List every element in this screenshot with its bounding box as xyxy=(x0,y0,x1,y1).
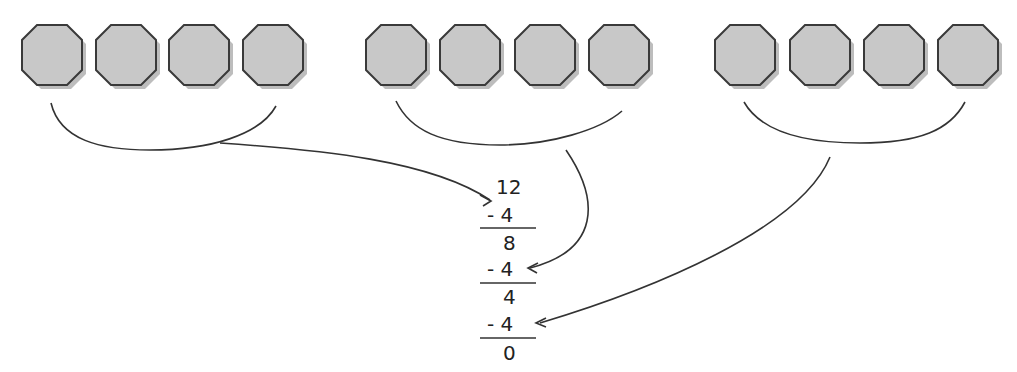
step-3-op: - 4 xyxy=(487,312,513,336)
bracket-group-1 xyxy=(51,103,276,150)
start-value: 12 xyxy=(496,175,521,199)
bracket-group-2 xyxy=(396,101,622,145)
bracket-group-3 xyxy=(744,102,965,143)
step-2-op: - 4 xyxy=(487,257,513,281)
octagon-icon xyxy=(366,25,430,89)
step-1-op: - 4 xyxy=(487,203,513,227)
octagon-group-2 xyxy=(366,25,653,89)
octagon-icon xyxy=(790,25,854,89)
octagon-group-3 xyxy=(715,25,1002,89)
octagon-icon xyxy=(589,25,653,89)
step-3-result: 0 xyxy=(503,341,516,365)
octagon-icon xyxy=(864,25,928,89)
octagon-icon xyxy=(938,25,1002,89)
step-1-result: 8 xyxy=(503,231,516,255)
octagon-icon xyxy=(169,25,233,89)
arrow-to-step-1 xyxy=(220,143,490,200)
octagon-icon xyxy=(515,25,579,89)
octagon-icon xyxy=(440,25,504,89)
step-2-result: 4 xyxy=(503,285,516,309)
octagon-icon xyxy=(243,25,307,89)
octagon-icon xyxy=(715,25,779,89)
arrow-to-step-2 xyxy=(530,150,588,268)
octagon-icon xyxy=(96,25,160,89)
octagon-icon xyxy=(22,25,86,89)
octagon-group-1 xyxy=(22,25,307,89)
division-diagram: 12 - 4 8 - 4 4 - 4 0 xyxy=(0,0,1017,372)
